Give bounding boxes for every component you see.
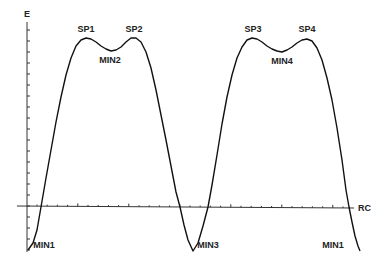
energy-curve: [28, 38, 360, 251]
point-labels: SP1SP2MIN2SP3SP4MIN4MIN1MIN3MIN1: [33, 24, 344, 250]
point-label-min1: MIN1: [322, 240, 344, 250]
y-axis-label: E: [24, 9, 30, 19]
y-axis-ticks: [27, 30, 30, 250]
point-label-sp4: SP4: [298, 24, 315, 34]
point-label-min1: MIN1: [33, 240, 55, 250]
point-label-sp3: SP3: [244, 24, 261, 34]
point-label-sp1: SP1: [77, 24, 94, 34]
point-label-min2: MIN2: [99, 55, 121, 65]
energy-profile-diagram: E RC SP1SP2MIN2SP3SP4MIN4MIN1MIN3MIN1: [0, 0, 389, 268]
point-label-sp2: SP2: [125, 24, 142, 34]
point-label-min4: MIN4: [271, 56, 293, 66]
point-label-min3: MIN3: [197, 240, 219, 250]
x-axis-label: RC: [358, 203, 371, 213]
